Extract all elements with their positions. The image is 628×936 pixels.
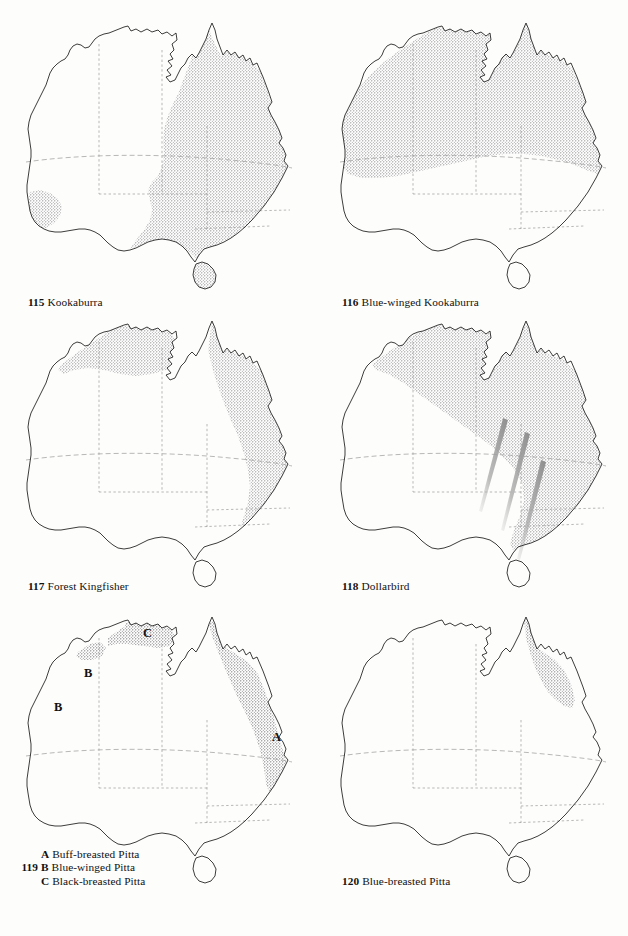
caption-119-text-b: Blue-winged Pitta bbox=[52, 861, 136, 873]
caption-119-line-b: 119 B Blue-winged Pitta bbox=[12, 861, 145, 874]
caption-number-116: 116 bbox=[342, 296, 359, 308]
caption-119: A Buff-breasted Pitta 119 B Blue-winged … bbox=[12, 848, 145, 888]
map-120-canvas bbox=[314, 608, 628, 888]
caption-119-letter-c: C bbox=[41, 875, 49, 887]
caption-119-text-a: Buff-breasted Pitta bbox=[52, 848, 139, 860]
map-plate-page: 115 Kookaburra bbox=[0, 0, 628, 936]
range-shading-119 bbox=[76, 620, 286, 794]
caption-name-116: Blue-winged Kookaburra bbox=[362, 296, 479, 308]
map-115-canvas bbox=[0, 14, 314, 294]
caption-number-117: 117 bbox=[28, 580, 45, 592]
caption-number-120: 120 bbox=[342, 875, 359, 887]
tropic-line-119 bbox=[26, 749, 292, 762]
range-shading-115 bbox=[27, 30, 288, 289]
tropic-line-120 bbox=[340, 749, 606, 762]
map-panel-119[interactable]: A B B C A Buff-breasted Pitta 119 B Blue… bbox=[0, 608, 314, 936]
caption-119-letter-b: B bbox=[41, 861, 49, 873]
caption-name-115: Kookaburra bbox=[48, 296, 103, 308]
map-panel-115[interactable]: 115 Kookaburra bbox=[0, 14, 314, 326]
map-117-canvas bbox=[0, 312, 314, 592]
map-118-canvas bbox=[314, 312, 628, 592]
caption-118: 118 Dollarbird bbox=[342, 580, 410, 594]
tasmania-120 bbox=[507, 856, 530, 883]
map-panel-120[interactable]: 120 Blue-breasted Pitta bbox=[314, 608, 628, 936]
tasmania-117 bbox=[193, 560, 216, 587]
caption-120: 120 Blue-breasted Pitta bbox=[342, 875, 450, 889]
caption-119-letter-a: A bbox=[41, 848, 49, 860]
caption-115: 115 Kookaburra bbox=[28, 296, 103, 310]
range-shading-118 bbox=[372, 321, 602, 552]
map-panel-118[interactable]: 118 Dollarbird bbox=[314, 312, 628, 624]
caption-name-120: Blue-breasted Pitta bbox=[362, 875, 450, 887]
map-119-canvas: A B B C bbox=[0, 608, 314, 888]
tasmania-116 bbox=[507, 262, 530, 289]
coastline-119 bbox=[27, 617, 288, 856]
map-116-canvas bbox=[314, 14, 628, 294]
caption-119-lead-b: 119 bbox=[12, 861, 38, 874]
range-shading-117 bbox=[58, 321, 288, 528]
caption-name-118: Dollarbird bbox=[362, 580, 410, 592]
caption-116: 116 Blue-winged Kookaburra bbox=[342, 296, 479, 310]
caption-119-text-c: Black-breasted Pitta bbox=[52, 875, 145, 887]
caption-name-117: Forest Kingfisher bbox=[48, 580, 129, 592]
map-panel-116[interactable]: 116 Blue-winged Kookaburra bbox=[314, 14, 628, 326]
tasmania-118 bbox=[507, 560, 530, 587]
map-panel-117[interactable]: 117 Forest Kingfisher bbox=[0, 312, 314, 624]
caption-number-118: 118 bbox=[342, 580, 359, 592]
map-marker-b-kimberley-119: B bbox=[84, 666, 92, 681]
map-marker-b-west-119: B bbox=[54, 700, 62, 715]
state-boundaries-120 bbox=[413, 638, 604, 823]
caption-119-line-c: C Black-breasted Pitta bbox=[12, 875, 145, 888]
range-shading-120 bbox=[524, 618, 575, 708]
map-marker-a-119: A bbox=[272, 730, 281, 745]
caption-119-line-a: A Buff-breasted Pitta bbox=[12, 848, 145, 861]
coastline-120 bbox=[341, 617, 602, 856]
tasmania-119 bbox=[193, 856, 216, 883]
caption-number-115: 115 bbox=[28, 296, 45, 308]
map-marker-c-119: C bbox=[143, 626, 152, 641]
range-shading-116 bbox=[340, 23, 602, 178]
caption-117: 117 Forest Kingfisher bbox=[28, 580, 129, 594]
